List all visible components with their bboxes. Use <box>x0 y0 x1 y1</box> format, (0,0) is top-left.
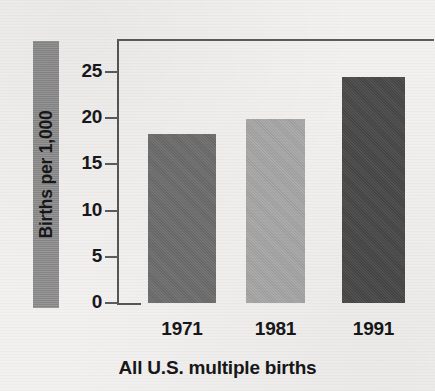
y-axis-title: Births per 1,000 <box>36 110 57 238</box>
plot-top-border-line <box>117 39 434 41</box>
x-axis-label-1991: 1991 <box>326 318 421 340</box>
bar-1971 <box>148 134 216 303</box>
y-axis-tick-20 <box>105 117 118 119</box>
y-axis-line <box>117 39 119 305</box>
y-axis-tick-15 <box>105 163 118 165</box>
y-axis-tick-label-25: 25 <box>58 60 102 82</box>
x-axis-baseline <box>117 303 141 305</box>
bar-1981 <box>246 119 305 303</box>
y-axis-tick-label-15: 15 <box>58 152 102 174</box>
y-axis-tick-5 <box>105 256 118 258</box>
y-axis-tick-10 <box>105 210 118 212</box>
chart-caption: All U.S. multiple births <box>0 357 435 379</box>
x-axis-label-1971: 1971 <box>132 318 232 340</box>
y-axis-tick-labels: 0510152025 <box>56 0 102 391</box>
y-axis-tick-label-0: 0 <box>58 291 102 313</box>
y-axis-tick-label-10: 10 <box>58 199 102 221</box>
y-axis-tick-25 <box>105 71 118 73</box>
x-axis-label-1981: 1981 <box>230 318 321 340</box>
y-axis-tick-0 <box>105 302 118 304</box>
bar-chart: Births per 1,000 0510152025 197119811991… <box>0 0 435 391</box>
y-axis-tick-label-20: 20 <box>58 106 102 128</box>
bar-1991 <box>342 77 405 303</box>
y-axis-tick-label-5: 5 <box>58 245 102 267</box>
